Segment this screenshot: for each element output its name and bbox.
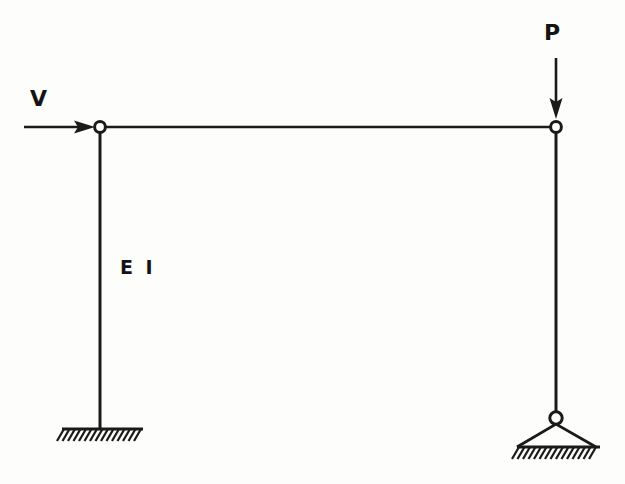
right-pinned-support <box>512 412 600 459</box>
flexural-rigidity-label: E I <box>120 258 156 277</box>
right-support-pin <box>550 412 562 424</box>
vertical-load-label: P <box>544 22 560 44</box>
portal-frame-drawing <box>0 0 625 484</box>
left-support-hatching <box>57 429 141 441</box>
left-fixed-support <box>57 429 143 441</box>
right-support-hatching <box>512 447 596 459</box>
frame-members <box>100 127 556 429</box>
top-left-joint <box>95 122 106 133</box>
top-right-joint <box>551 122 562 133</box>
right-support-triangle <box>517 424 596 447</box>
vertical-load-P-arrow <box>550 58 563 119</box>
diagram-canvas: V P E I <box>0 0 625 484</box>
horizontal-load-label: V <box>30 88 47 110</box>
horizontal-load-V-arrow <box>24 121 95 134</box>
